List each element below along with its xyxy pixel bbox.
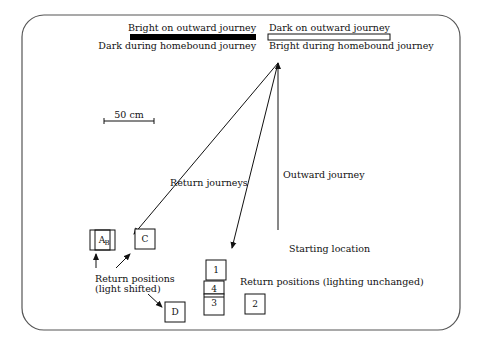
arrow-to-box-d <box>148 294 162 307</box>
box-b-label: B <box>104 239 109 247</box>
box-4-label: 4 <box>211 284 217 294</box>
return-journeys-label: Return journeys <box>170 177 248 188</box>
legend-dark-top-label: Dark on outward journey <box>269 22 391 33</box>
legend-dark-bottom-label: Bright during homebound journey <box>269 40 434 51</box>
box-3-label: 3 <box>211 298 217 308</box>
arrow-to-box-c <box>116 254 130 268</box>
legend-bright-top-label: Bright on outward journey <box>128 22 257 33</box>
box-1-label: 1 <box>213 265 219 275</box>
return-shifted-label-line2: (light shifted) <box>95 283 161 294</box>
box-2-label: 2 <box>252 299 258 309</box>
return-unchanged-label: Return positions (lighting unchanged) <box>240 276 424 287</box>
starting-location-label: Starting location <box>289 243 370 254</box>
outward-journey-label: Outward journey <box>283 169 365 180</box>
scale-bar-label: 50 cm <box>114 109 143 120</box>
box-c-label: C <box>142 234 149 244</box>
homing-diagram: Bright on outward journey Dark during ho… <box>0 0 483 346</box>
legend-bright-bottom-label: Dark during homebound journey <box>98 40 256 51</box>
box-d-label: D <box>171 307 178 317</box>
